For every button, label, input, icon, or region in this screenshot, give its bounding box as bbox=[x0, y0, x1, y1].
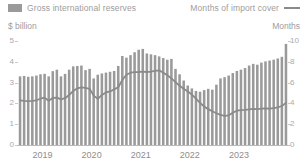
bar bbox=[207, 89, 210, 145]
bar bbox=[277, 58, 280, 145]
bar bbox=[211, 90, 214, 145]
bar bbox=[150, 54, 153, 145]
bar bbox=[121, 56, 124, 145]
bar bbox=[129, 55, 132, 145]
bar bbox=[35, 76, 38, 145]
plot-area: 543210 1086420 bbox=[0, 33, 306, 148]
x-axis-tick-label: 2021 bbox=[131, 150, 151, 160]
left-axis-tick-mark bbox=[15, 145, 18, 146]
bar bbox=[215, 85, 218, 145]
bar bbox=[52, 71, 55, 145]
left-axis-tick-label: 0 bbox=[4, 141, 14, 149]
legend-label-import-cover: Months of import cover bbox=[190, 3, 279, 13]
bar bbox=[191, 88, 194, 145]
bar bbox=[125, 58, 128, 145]
right-axis-tick-mark bbox=[288, 41, 291, 42]
bar bbox=[84, 70, 87, 145]
bar bbox=[166, 60, 169, 145]
legend-item-reserves: Gross international reserves bbox=[8, 3, 136, 13]
bar bbox=[39, 74, 42, 145]
bar bbox=[31, 76, 34, 145]
bar bbox=[256, 65, 259, 145]
left-axis-tick-mark bbox=[15, 103, 18, 104]
right-axis-tick-mark bbox=[288, 124, 291, 125]
right-axis-tick-label: 0 bbox=[290, 141, 302, 149]
right-axis-tick-mark bbox=[288, 62, 291, 63]
bar bbox=[252, 64, 255, 145]
bar bbox=[240, 70, 243, 145]
bar bbox=[219, 78, 222, 145]
bar bbox=[43, 74, 46, 145]
right-axis-tick-mark bbox=[288, 103, 291, 104]
legend-label-reserves: Gross international reserves bbox=[27, 3, 136, 13]
left-axis-tick-label: 1 bbox=[4, 120, 14, 128]
bar bbox=[56, 70, 59, 145]
bar bbox=[113, 71, 116, 145]
right-axis-tick-label: 6 bbox=[290, 79, 302, 87]
bar bbox=[203, 90, 206, 145]
bar bbox=[281, 57, 284, 145]
bar bbox=[199, 92, 202, 145]
right-axis-tick-label: 2 bbox=[290, 120, 302, 128]
bar bbox=[117, 66, 120, 145]
bar bbox=[170, 59, 173, 145]
bar bbox=[154, 55, 157, 145]
bar bbox=[23, 76, 26, 145]
bar bbox=[162, 58, 165, 145]
bar-swatch-icon bbox=[8, 4, 22, 12]
bar bbox=[47, 76, 50, 145]
bar bbox=[187, 86, 190, 145]
x-axis-tick-label: 2023 bbox=[229, 150, 249, 160]
left-axis-tick-mark bbox=[15, 83, 18, 84]
bar bbox=[137, 50, 140, 145]
bar bbox=[260, 63, 263, 145]
x-axis-tick-label: 2019 bbox=[33, 150, 53, 160]
bar bbox=[142, 49, 145, 145]
legend-item-import-cover: Months of import cover bbox=[190, 3, 300, 13]
bar bbox=[64, 74, 67, 145]
left-axis-tick-mark bbox=[15, 62, 18, 63]
plot-svg bbox=[0, 33, 306, 148]
bar bbox=[68, 70, 71, 145]
x-axis-tick-label: 2020 bbox=[82, 150, 102, 160]
left-axis-tick-mark bbox=[15, 124, 18, 125]
right-axis-tick-label: 10 bbox=[290, 37, 302, 45]
bar bbox=[236, 71, 239, 145]
left-axis-tick-mark bbox=[15, 41, 18, 42]
bar bbox=[88, 69, 91, 145]
right-axis-tick-mark bbox=[288, 83, 291, 84]
left-axis-tick-label: 5 bbox=[4, 37, 14, 45]
left-axis-tick-label: 3 bbox=[4, 79, 14, 87]
bar bbox=[268, 61, 271, 145]
bar bbox=[80, 66, 83, 145]
left-axis-tick-label: 4 bbox=[4, 58, 14, 66]
bar bbox=[60, 76, 63, 145]
right-axis-tick-label: 4 bbox=[290, 99, 302, 107]
bar bbox=[101, 73, 104, 145]
bar bbox=[19, 76, 22, 145]
chart-legend: Gross international reserves Months of i… bbox=[0, 3, 306, 17]
gross-international-reserves-chart: Gross international reserves Months of i… bbox=[0, 0, 306, 166]
bar bbox=[72, 66, 75, 145]
bar bbox=[285, 44, 288, 145]
bar bbox=[264, 61, 267, 145]
right-axis-tick-label: 8 bbox=[290, 58, 302, 66]
right-axis-title: Months bbox=[272, 21, 300, 31]
bar bbox=[227, 76, 230, 145]
line-swatch-icon bbox=[284, 7, 300, 9]
left-axis-tick-label: 2 bbox=[4, 99, 14, 107]
bar bbox=[27, 77, 30, 145]
bar bbox=[272, 60, 275, 145]
bar bbox=[248, 66, 251, 145]
bar bbox=[97, 75, 100, 145]
bar bbox=[146, 53, 149, 145]
bar bbox=[232, 73, 235, 145]
bar bbox=[133, 52, 136, 145]
bar bbox=[76, 66, 79, 145]
bar bbox=[223, 77, 226, 145]
left-axis-title: $ billion bbox=[8, 21, 37, 31]
bar bbox=[92, 78, 95, 145]
x-axis-labels: 20192020202120222023 bbox=[0, 150, 306, 164]
bar bbox=[105, 73, 108, 145]
right-axis-tick-mark bbox=[288, 145, 291, 146]
